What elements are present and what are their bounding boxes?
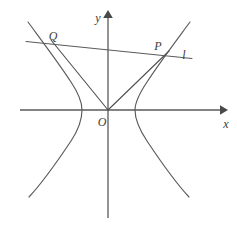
y-axis-label: y bbox=[94, 11, 101, 25]
origin-label: O bbox=[98, 115, 107, 129]
figure-canvas: y x O P Q l bbox=[0, 0, 237, 238]
x-axis-label: x bbox=[222, 117, 229, 131]
y-axis-arrow-icon bbox=[103, 10, 113, 18]
secant-line-group bbox=[26, 42, 192, 59]
geometry-figure: y x O P Q l bbox=[0, 0, 237, 238]
secant-line-l bbox=[26, 42, 192, 59]
ray-origin-to-p bbox=[108, 51, 169, 110]
point-q-label: Q bbox=[49, 29, 58, 43]
line-l-label: l bbox=[182, 48, 186, 62]
x-axis-arrow-icon bbox=[220, 105, 228, 115]
point-p-label: P bbox=[153, 39, 162, 53]
